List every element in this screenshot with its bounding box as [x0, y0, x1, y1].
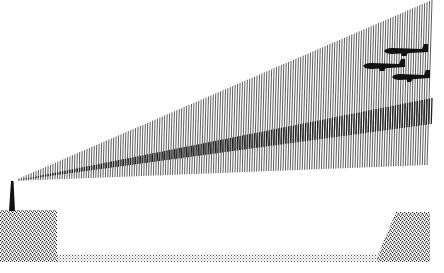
beam-line	[372, 24, 376, 167]
beam-line	[237, 83, 240, 172]
beam-line	[199, 100, 201, 174]
beam-line	[182, 107, 184, 174]
beam-line	[60, 161, 61, 180]
beam-line	[216, 92, 218, 173]
beam-line	[228, 87, 231, 173]
beam-line	[110, 139, 111, 178]
beam-dense-line	[358, 112, 359, 133]
beam-dense-line	[366, 111, 367, 133]
beam-dense-line	[431, 98, 432, 124]
beam-dense-line	[291, 126, 292, 143]
beam-dense-line	[300, 124, 301, 142]
beam-line	[230, 86, 233, 173]
beam-dense-line	[308, 123, 309, 141]
beam-line	[204, 98, 206, 174]
beam-line	[355, 31, 359, 167]
beam-dense-line	[346, 115, 347, 136]
beam-line	[72, 155, 73, 178]
beam-line	[189, 104, 191, 174]
beam-line	[242, 81, 245, 172]
beam-dense-line	[375, 109, 376, 132]
beam-dense-line	[286, 127, 287, 144]
beam-line	[201, 99, 203, 174]
beam-line	[173, 111, 175, 175]
beam-dense-line	[325, 119, 326, 138]
beam-line	[105, 141, 106, 178]
beam-line	[225, 88, 228, 173]
beam-dense-line	[424, 99, 425, 125]
beam-dense-line	[298, 124, 299, 142]
beam-dense-line	[426, 99, 427, 125]
beam-lines	[19, 0, 432, 181]
radar-beam-scene	[0, 0, 444, 273]
beam-line	[146, 123, 148, 176]
beam-line	[168, 113, 170, 175]
beam-line	[369, 25, 373, 167]
beam-line	[120, 134, 121, 177]
beam-dense-line	[412, 102, 413, 127]
beam-line	[103, 142, 104, 178]
beam-line	[74, 154, 75, 178]
beam-line	[365, 27, 369, 167]
beam-line	[391, 16, 396, 167]
beam-line	[384, 19, 388, 167]
beam-line	[93, 146, 94, 178]
beam-line	[396, 14, 401, 167]
beam-line	[86, 149, 87, 178]
beam-line	[350, 34, 354, 168]
beam-line	[163, 115, 165, 175]
beam-line	[197, 101, 199, 174]
beam-line	[137, 127, 138, 176]
beam-line	[398, 13, 403, 167]
beam-dense-line	[371, 110, 372, 132]
beam-line	[55, 163, 56, 180]
beam-line	[235, 84, 238, 172]
beam-line	[374, 23, 378, 167]
ground-strip	[57, 254, 377, 262]
beam-line	[65, 158, 66, 179]
beam-line	[127, 131, 128, 176]
beam-line	[139, 126, 141, 176]
beam-line	[132, 129, 133, 176]
beam-line	[113, 137, 114, 177]
beam-dense-line	[322, 120, 323, 139]
beam-line	[89, 148, 90, 178]
beam-dense-line	[429, 98, 430, 124]
beam-line	[417, 4, 422, 165]
beam-line	[211, 94, 213, 173]
beam-line	[408, 8, 413, 165]
left-ground-block	[0, 210, 57, 262]
beam-line	[77, 153, 78, 178]
beam-line	[62, 160, 63, 180]
beam-dense-line	[317, 121, 318, 140]
beam-dense-line	[378, 109, 379, 132]
beam-dense-line	[400, 104, 401, 128]
beam-dense-line	[303, 124, 304, 142]
beam-dense-line	[363, 111, 364, 133]
beam-dense-line	[334, 117, 335, 137]
beam-line	[117, 135, 118, 177]
beam-dense-line	[281, 128, 282, 145]
beam-line	[180, 108, 182, 174]
beam-line	[177, 109, 179, 175]
beam-line	[245, 80, 248, 172]
beam-dense-line	[332, 118, 333, 138]
beam-line	[403, 10, 408, 165]
beam-dense-line	[293, 125, 294, 142]
beam-line	[96, 145, 97, 178]
beam-line	[233, 85, 236, 172]
beam-line	[415, 5, 420, 165]
beam-line	[221, 90, 223, 173]
beam-dense-line	[278, 128, 279, 145]
beam-dense-line	[417, 101, 418, 126]
beam-dense-line	[383, 108, 384, 131]
beam-line	[185, 106, 187, 174]
beam-dense-line	[310, 122, 311, 140]
beam-line	[367, 26, 371, 167]
beam-line	[98, 144, 99, 178]
right-ground-block	[375, 212, 430, 262]
beam-line	[125, 132, 126, 176]
beam-line	[381, 20, 385, 167]
beam-dense-line	[388, 107, 389, 130]
ground	[0, 210, 430, 262]
